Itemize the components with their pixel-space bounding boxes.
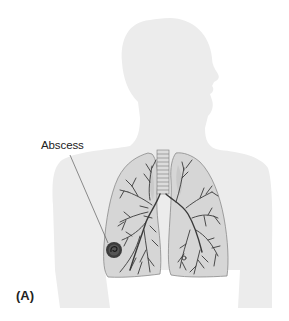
panel-label: (A) (16, 288, 34, 303)
trachea (157, 150, 169, 194)
abscess-label: Abscess (41, 139, 84, 151)
lung-abscess-diagram: Abscess (A) (0, 0, 289, 321)
abscess-lesion (106, 242, 122, 258)
